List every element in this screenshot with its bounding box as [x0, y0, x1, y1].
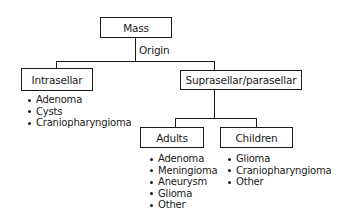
- list-item: Adenoma: [150, 153, 217, 165]
- node-intrasellar: Intrasellar: [21, 68, 93, 91]
- list-item: Cysts: [28, 106, 131, 118]
- node-suprasellar-parasellar: Suprasellar/parasellar: [180, 70, 302, 90]
- connector-to-suprasellar: [214, 61, 215, 70]
- connector-suprasellar-down: [214, 90, 215, 118]
- list-item: Other: [228, 176, 331, 188]
- adults-list: Adenoma Meningioma Aneurysm Glioma Other: [150, 153, 217, 211]
- list-item: Meningioma: [150, 165, 217, 177]
- connector-level2-horizontal: [175, 118, 257, 119]
- node-mass: Mass: [100, 17, 172, 38]
- node-children: Children: [220, 127, 293, 148]
- node-adults-label: Adults: [156, 132, 188, 144]
- list-item: Adenoma: [28, 94, 131, 106]
- list-item: Craniopharyngioma: [228, 165, 331, 177]
- connector-mass-down: [135, 38, 136, 61]
- list-item: Other: [150, 199, 217, 211]
- intrasellar-list: Adenoma Cysts Craniopharyngioma: [28, 94, 131, 129]
- node-intrasellar-label: Intrasellar: [32, 74, 83, 86]
- connector-to-adults: [175, 118, 176, 127]
- node-children-label: Children: [235, 132, 277, 144]
- children-list: Glioma Craniopharyngioma Other: [228, 153, 331, 188]
- node-suprasellar-label: Suprasellar/parasellar: [186, 74, 297, 86]
- node-adults: Adults: [140, 127, 204, 148]
- list-item: Aneurysm: [150, 176, 217, 188]
- connector-level1-horizontal: [56, 61, 215, 62]
- node-mass-label: Mass: [123, 22, 149, 34]
- list-item: Glioma: [150, 188, 217, 200]
- connector-to-intrasellar: [56, 61, 57, 68]
- connector-to-children: [256, 118, 257, 127]
- edge-label-origin: Origin: [139, 44, 170, 56]
- list-item: Glioma: [228, 153, 331, 165]
- list-item: Craniopharyngioma: [28, 117, 131, 129]
